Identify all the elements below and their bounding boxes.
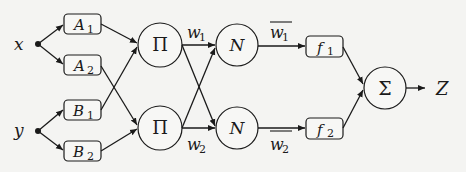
node-A2: A 2 <box>64 55 101 77</box>
svg-text:B: B <box>72 102 84 120</box>
node-f1: f 1 <box>306 36 343 58</box>
svg-text:1: 1 <box>199 31 206 44</box>
svg-text:2: 2 <box>282 143 289 156</box>
output-z: Z <box>435 78 449 99</box>
node-B2: B 2 <box>64 141 101 163</box>
svg-text:A: A <box>72 57 85 75</box>
edges-layer4-layer5 <box>343 47 363 128</box>
svg-text:Π: Π <box>152 117 168 138</box>
edges-layer1-layer2 <box>101 24 137 151</box>
svg-text:2: 2 <box>327 127 334 140</box>
anfis-diagram: x y A 1 A 2 B 1 B 2 Π <box>0 0 466 172</box>
svg-text:x: x <box>14 34 24 54</box>
input-x: x <box>14 34 41 54</box>
svg-text:N: N <box>229 118 246 138</box>
svg-text:Π: Π <box>152 34 168 55</box>
norm-weight-w1: w 1 <box>270 22 292 44</box>
node-norm-1: N <box>216 24 258 66</box>
norm-weight-w2: w 2 <box>270 131 292 156</box>
node-norm-2: N <box>216 107 258 149</box>
svg-text:A: A <box>72 16 85 34</box>
svg-text:B: B <box>72 143 84 161</box>
svg-text:N: N <box>229 35 246 55</box>
svg-text:1: 1 <box>282 31 289 44</box>
svg-text:y: y <box>13 120 24 140</box>
node-prod-1: Π <box>138 23 182 67</box>
svg-text:2: 2 <box>199 143 206 156</box>
svg-text:1: 1 <box>87 109 94 122</box>
svg-text:2: 2 <box>87 64 94 77</box>
input-y: y <box>13 120 41 140</box>
edges-layer3-layer4 <box>258 46 305 128</box>
weight-w2: w 2 <box>187 135 206 156</box>
svg-text:Σ: Σ <box>378 77 391 99</box>
svg-text:1: 1 <box>327 45 334 58</box>
weight-w1: w 1 <box>187 23 206 44</box>
node-sum: Σ <box>364 67 406 109</box>
node-f2: f 2 <box>306 118 343 140</box>
edges-layer2-layer3 <box>182 45 215 128</box>
node-A1: A 1 <box>64 14 101 36</box>
svg-text:1: 1 <box>87 23 94 36</box>
node-B1: B 1 <box>64 100 101 122</box>
svg-text:2: 2 <box>87 150 94 163</box>
edges-input-layer1 <box>38 25 63 150</box>
node-prod-2: Π <box>138 106 182 150</box>
